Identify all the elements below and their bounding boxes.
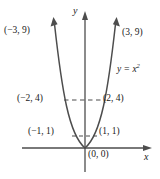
parabola-figure: (−3, 9) (3, 9) (−2, 4) (2, 4) (−1, 1) (1… <box>0 0 160 179</box>
point-label-3-9: (3, 9) <box>122 28 143 38</box>
curve-left-arrow-icon <box>51 17 58 27</box>
equation-label-text: y = x <box>117 64 137 74</box>
y-axis-label: y <box>73 6 77 16</box>
point-label-2-4: (2, 4) <box>103 94 124 104</box>
point-label-neg1-1: (−1, 1) <box>28 127 54 137</box>
equation-label: y = x2 <box>117 63 140 75</box>
point-label-1-1: (1, 1) <box>99 127 120 137</box>
point-label-neg2-4: (−2, 4) <box>17 94 43 104</box>
point-label-neg3-9: (−3, 9) <box>4 26 30 36</box>
equation-exponent: 2 <box>137 62 140 69</box>
curve-right-arrow-icon <box>113 17 120 27</box>
x-axis-label: x <box>144 152 148 162</box>
point-label-origin: (0, 0) <box>88 150 109 160</box>
y-axis-arrow-icon <box>82 11 88 20</box>
